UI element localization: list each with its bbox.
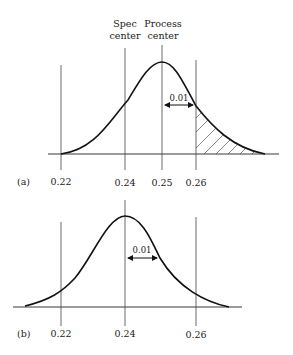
spec-center-label-1: Spec bbox=[113, 18, 137, 29]
tick-022-b: 0.22 bbox=[50, 328, 71, 339]
tick-022-a: 0.22 bbox=[50, 176, 71, 187]
process-center-label-2: center bbox=[147, 30, 179, 41]
tick-026-a: 0.26 bbox=[185, 177, 206, 188]
tick-024-b: 0.24 bbox=[114, 328, 135, 339]
panel-label-b: (b) bbox=[17, 328, 31, 339]
tick-024-a: 0.24 bbox=[114, 177, 135, 188]
panel-b: 0.01 (b) 0.22 0.24 0.26 bbox=[13, 200, 242, 340]
spec-center-label-2: center bbox=[109, 30, 141, 41]
tick-026-b: 0.26 bbox=[185, 329, 206, 340]
sigma-label-b: 0.01 bbox=[133, 245, 152, 255]
distribution-curve-a bbox=[61, 62, 265, 154]
panel-a: Spec center Process center 0.01 (a) 0.22 bbox=[17, 18, 292, 188]
process-center-label-1: Process bbox=[144, 18, 181, 29]
offset-label-a: 0.01 bbox=[170, 93, 189, 103]
panel-label-a: (a) bbox=[17, 176, 30, 187]
figure: Spec center Process center 0.01 (a) 0.22 bbox=[0, 0, 293, 355]
distribution-curve-b bbox=[25, 216, 229, 307]
tick-025-a: 0.25 bbox=[151, 177, 172, 188]
